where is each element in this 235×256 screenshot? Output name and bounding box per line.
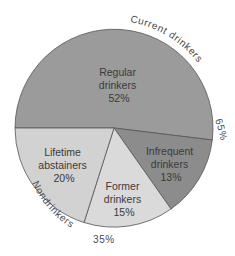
group-pct-current: 65% xyxy=(213,117,229,141)
group-pct-nondrinkers: 35% xyxy=(93,234,115,245)
pie-chart: Regular drinkers 52% Infrequent drinkers… xyxy=(0,0,235,256)
